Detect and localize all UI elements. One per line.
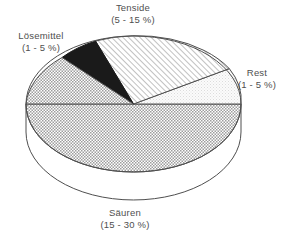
pie-cylinder-body: [26, 36, 241, 200]
pie-top-face: [26, 36, 241, 172]
pie-label-tenside: Tenside (5 - 15 %): [111, 2, 155, 26]
pie-label-sauren-value: (15 - 30 %): [100, 219, 149, 231]
pie-label-losemittel: Lösemittel (1 - 5 %): [18, 30, 63, 54]
pie-label-losemittel-value: (1 - 5 %): [18, 42, 63, 54]
pie-label-sauren-name: Säuren: [109, 207, 141, 218]
pie-label-sauren: Säuren (15 - 30 %): [100, 207, 149, 231]
pie-label-rest-name: Rest: [247, 67, 267, 78]
pie-label-losemittel-name: Lösemittel: [18, 30, 63, 41]
pie-label-tenside-name: Tenside: [116, 2, 150, 13]
pie-chart-figure: Tenside (5 - 15 %) Lösemittel (1 - 5 %) …: [0, 0, 281, 239]
pie-label-tenside-value: (5 - 15 %): [111, 14, 155, 26]
pie-label-rest: Rest (1 - 5 %): [238, 67, 276, 91]
pie-label-rest-value: (1 - 5 %): [238, 79, 276, 91]
